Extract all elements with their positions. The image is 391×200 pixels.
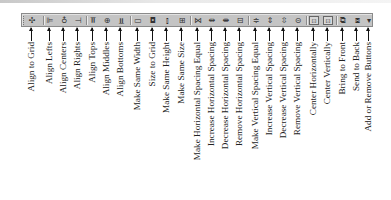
callout-arrow	[197, 28, 198, 41]
toolbar-separator	[306, 16, 307, 25]
toolbar-grip-handle[interactable]	[23, 16, 26, 25]
callout-label-make-same-size: Make Same Size	[176, 42, 186, 104]
callout-arrow	[63, 28, 64, 41]
increase-horizontal-spacing-icon: ⇹	[209, 16, 216, 25]
align-rights-button[interactable]: ⊣	[73, 16, 83, 25]
center-horizontally-button[interactable]: ⊡	[309, 16, 319, 25]
callout-label-remove-horizontal-spacing: Remove Horizontal Spacing	[234, 42, 244, 146]
send-to-back-button[interactable]: ⧈	[352, 16, 362, 25]
decrease-horizontal-spacing-icon: ⇼	[223, 16, 230, 25]
toolbar-separator	[248, 16, 249, 25]
make-horizontal-spacing-equal-button[interactable]: ⋈	[193, 16, 203, 25]
callout-label-align-middles: Align Middles	[101, 42, 111, 95]
align-rights-icon: ⊣	[75, 16, 82, 25]
remove-horizontal-spacing-button[interactable]: ⊟	[235, 16, 245, 25]
toolbar-separator	[190, 16, 191, 25]
toolbar-separator	[86, 16, 87, 25]
remove-vertical-spacing-icon: ⊝	[295, 16, 302, 25]
callout-arrow	[152, 28, 153, 41]
align-lefts-button[interactable]: ⊫	[45, 16, 55, 25]
callout-arrow	[166, 28, 167, 41]
make-same-height-icon: ⫾	[166, 16, 169, 25]
toolbar-separator	[336, 16, 337, 25]
align-bottoms-button[interactable]: ⫫	[116, 16, 126, 25]
align-centers-icon: ♁	[61, 16, 67, 25]
add-or-remove-buttons-button[interactable]: ▾	[364, 16, 374, 25]
make-horizontal-spacing-equal-icon: ⋈	[194, 16, 202, 25]
align-to-grid-icon: ✣	[29, 16, 36, 25]
callout-arrow	[31, 28, 32, 41]
callout-arrow	[49, 28, 50, 41]
decrease-vertical-spacing-button[interactable]: ⇳	[279, 16, 289, 25]
callout-label-size-to-grid: Size to Grid	[147, 42, 157, 86]
make-same-width-button[interactable]: ▭	[133, 16, 143, 25]
align-tops-button[interactable]: ⫪	[88, 16, 98, 25]
increase-vertical-spacing-icon: ⇕	[267, 16, 274, 25]
remove-horizontal-spacing-icon: ⊟	[237, 16, 244, 25]
align-bottoms-icon: ⫫	[119, 16, 124, 25]
callout-arrow	[239, 28, 240, 41]
callout-arrow	[327, 28, 328, 41]
bring-to-front-button[interactable]: ⧉	[338, 16, 348, 25]
callout-arrow	[92, 28, 93, 41]
callout-arrow	[356, 28, 357, 41]
toolbar-separator	[130, 16, 131, 25]
size-to-grid-icon: ◘	[150, 16, 156, 25]
layout-toolbar: ✣⊫♁⊣⫪⊕⫫▭◘⫾⊞⋈⇹⇼⊟≑⇕⇳⊝⊡⊡⧉⧈▾	[21, 13, 373, 27]
center-vertically-button[interactable]: ⊡	[323, 16, 333, 25]
callout-arrow	[255, 28, 256, 41]
increase-vertical-spacing-button[interactable]: ⇕	[265, 16, 275, 25]
make-vertical-spacing-equal-icon: ≑	[253, 16, 260, 25]
callout-arrow	[342, 28, 343, 41]
callout-label-decrease-vertical-spacing: Decrease Vertical Spacing	[278, 42, 288, 138]
callout-label-send-to-back: Send to Back	[351, 42, 361, 91]
align-to-grid-button[interactable]: ✣	[27, 16, 37, 25]
callout-arrow	[77, 28, 78, 41]
callout-label-make-same-height: Make Same Height	[161, 42, 171, 113]
bring-to-front-icon: ⧉	[340, 16, 346, 25]
align-lefts-icon: ⊫	[47, 16, 54, 25]
callout-label-center-vertically: Center Vertically	[322, 42, 332, 104]
toolbar-separator	[43, 16, 44, 25]
callout-arrow	[120, 28, 121, 41]
decrease-horizontal-spacing-button[interactable]: ⇼	[221, 16, 231, 25]
callout-arrow	[137, 28, 138, 41]
callout-label-bring-to-front: Bring to Front	[337, 42, 347, 95]
callout-arrow	[106, 28, 107, 41]
callout-label-align-rights: Align Rights	[72, 42, 82, 89]
callout-label-make-same-width: Make Same Width	[132, 42, 142, 110]
callout-label-align-bottoms: Align Bottoms	[115, 42, 125, 96]
callout-label-align-to-grid: Align to Grid	[26, 42, 36, 92]
increase-horizontal-spacing-button[interactable]: ⇹	[207, 16, 217, 25]
make-same-width-icon: ▭	[134, 16, 142, 25]
callout-arrow	[225, 28, 226, 41]
remove-vertical-spacing-button[interactable]: ⊝	[293, 16, 303, 25]
make-same-size-button[interactable]: ⊞	[177, 16, 187, 25]
align-centers-button[interactable]: ♁	[59, 16, 69, 25]
center-vertically-icon: ⊡	[325, 17, 330, 24]
size-to-grid-button[interactable]: ◘	[148, 16, 158, 25]
callout-label-increase-vertical-spacing: Increase Vertical Spacing	[264, 42, 274, 135]
align-middles-button[interactable]: ⊕	[102, 16, 112, 25]
make-same-size-icon: ⊞	[179, 16, 186, 25]
callout-label-align-tops: Align Tops	[87, 42, 97, 83]
callout-label-center-horizontally: Center Horizontally	[308, 42, 318, 115]
top-border	[0, 0, 391, 3]
align-tops-icon: ⫪	[91, 16, 96, 25]
center-horizontally-icon: ⊡	[311, 17, 316, 24]
callout-label-align-lefts: Align Lefts	[44, 42, 54, 84]
callout-arrow	[368, 28, 369, 41]
make-same-height-button[interactable]: ⫾	[162, 16, 172, 25]
make-vertical-spacing-equal-button[interactable]: ≑	[251, 16, 261, 25]
callout-arrow	[269, 28, 270, 41]
callout-label-align-centers: Align Centers	[58, 42, 68, 93]
callout-arrow	[211, 28, 212, 41]
add-or-remove-buttons-icon: ▾	[367, 16, 371, 25]
decrease-vertical-spacing-icon: ⇳	[281, 16, 288, 25]
callout-arrow	[313, 28, 314, 41]
callout-label-decrease-horizontal-spacing: Decrease Horizontal Spacing	[220, 42, 230, 149]
callout-label-make-vertical-spacing-equal: Make Vertical Spacing Equal	[250, 42, 260, 149]
callout-arrow	[181, 28, 182, 41]
callout-arrow	[297, 28, 298, 41]
send-to-back-icon: ⧈	[355, 16, 360, 25]
